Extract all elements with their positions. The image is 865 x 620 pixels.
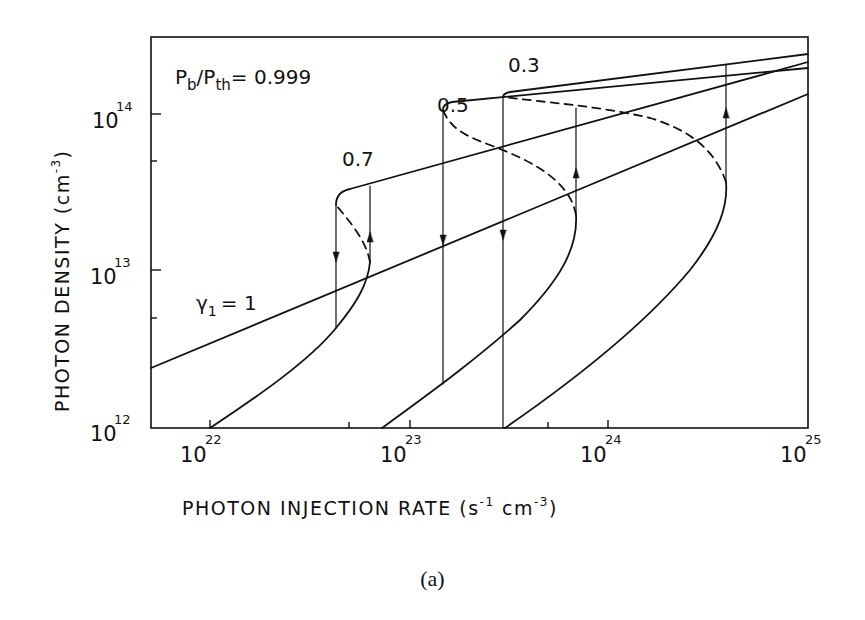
xtick-25-exp: 25 [805,432,822,447]
xtick-25-base: 10 [780,443,807,467]
y-tick-labels: 10 14 10 13 10 12 [90,99,133,446]
hysteresis-chart: 10 14 10 13 10 12 10 22 10 23 10 24 10 2… [0,0,865,560]
ytick-14-exp: 14 [116,99,133,114]
xtick-23-base: 10 [380,443,407,467]
series-gamma-1 [151,94,808,368]
xtick-24-base: 10 [580,443,607,467]
x-tick-labels: 10 22 10 23 10 24 10 25 [180,432,822,467]
ytick-13-exp: 13 [114,255,131,270]
plot-frame [151,37,808,428]
xtick-22-base: 10 [180,443,207,467]
ytick-12-exp: 12 [114,412,131,427]
xtick-24-exp: 24 [605,432,622,447]
curve-label-0.3: 0.3 [508,53,540,77]
y-axis-ticks [151,114,161,318]
ytick-14-base: 10 [92,109,119,133]
xtick-22-exp: 22 [205,432,222,447]
series-gamma-0.3 [500,54,808,428]
ytick-12-base: 10 [90,422,117,446]
figure-caption: (a) [0,566,865,592]
series-gamma-0.7 [210,62,808,428]
curve-label-0.5: 0.5 [437,93,469,117]
y-axis-label: PHOTON DENSITY (cm-3) [49,149,73,412]
curve-label-gamma-1: γ1= 1 [196,291,257,319]
parameter-annotation: Pb/Pth= 0.999 [175,65,311,94]
curve-label-0.7: 0.7 [342,147,374,171]
xtick-23-exp: 23 [405,432,422,447]
x-axis-ticks [210,420,608,428]
series-gamma-0.5 [382,68,808,428]
ytick-13-base: 10 [90,265,117,289]
x-axis-label: PHOTON INJECTION RATE (s-1 cm-3) [182,495,558,519]
